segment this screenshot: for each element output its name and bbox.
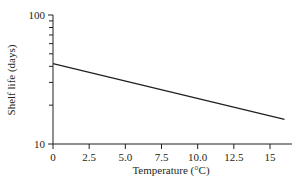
series-line <box>53 64 285 120</box>
x-axis: 02.55.07.510.012.515 <box>50 144 292 163</box>
y-axis-title: Shelf life (days) <box>5 44 18 115</box>
x-tick-label: 15 <box>265 151 277 163</box>
x-tick-label: 0 <box>50 151 56 163</box>
y-tick-label: 10 <box>34 138 46 150</box>
x-tick-label: 2.5 <box>82 151 96 163</box>
y-axis: 10100 <box>29 9 54 150</box>
x-tick-label: 7.5 <box>155 151 169 163</box>
x-tick-label: 10.0 <box>188 151 208 163</box>
shelf-life-chart: 10100 02.55.07.510.012.515 Shelf life (d… <box>0 0 303 191</box>
plot-lines <box>53 64 285 120</box>
x-tick-label: 12.5 <box>224 151 244 163</box>
x-tick-label: 5.0 <box>118 151 132 163</box>
x-axis-title: Temperature (°C) <box>132 164 210 177</box>
y-tick-label: 100 <box>29 9 46 21</box>
